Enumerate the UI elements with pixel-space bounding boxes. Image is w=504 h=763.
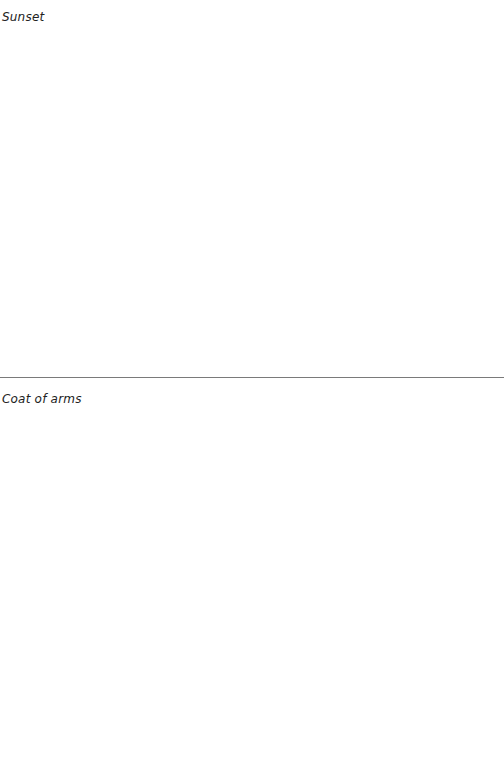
- drawing-area: [0, 414, 504, 763]
- section-coat-of-arms: Coat of arms: [0, 379, 504, 763]
- section-label: Sunset: [2, 10, 44, 24]
- drawing-area: [0, 30, 504, 377]
- section-divider: [0, 377, 504, 378]
- section-label: Coat of arms: [2, 392, 82, 406]
- section-sunset: Sunset: [0, 0, 504, 377]
